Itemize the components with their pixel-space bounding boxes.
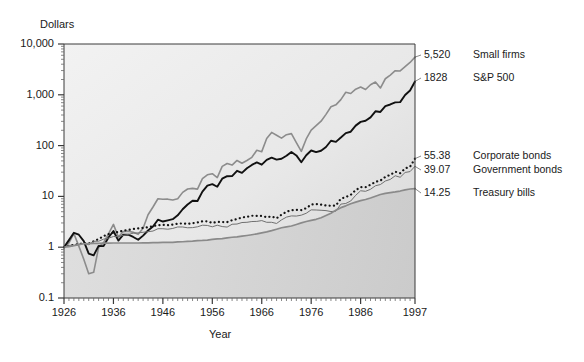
- y-tick-label: 0.1: [2, 291, 54, 303]
- series-end-value: 5,520: [424, 48, 450, 60]
- y-tick-label: 100: [2, 139, 54, 151]
- x-tick-label: 1946: [143, 306, 183, 318]
- x-tick-label: 1986: [341, 306, 381, 318]
- series-end-value: 14.25: [424, 186, 450, 198]
- chart-figure: Dollars Year 10,0001,0001001010.1 192619…: [0, 0, 584, 362]
- x-tick-label: 1936: [93, 306, 133, 318]
- y-tick-label: 1,000: [2, 88, 54, 100]
- x-tick-label: 1956: [192, 306, 232, 318]
- x-tick-label: 1926: [44, 306, 84, 318]
- series-legend-label: Government bonds: [473, 163, 562, 175]
- series-legend-label: Corporate bonds: [473, 149, 551, 161]
- series-end-value: 39.07: [424, 163, 450, 175]
- series-legend-label: Small firms: [473, 48, 525, 60]
- y-tick-label: 1: [2, 240, 54, 252]
- y-tick-label: 10: [2, 189, 54, 201]
- x-tick-label: 1966: [242, 306, 282, 318]
- series-end-value: 55.38: [424, 149, 450, 161]
- series-legend-label: S&P 500: [473, 71, 514, 83]
- series-end-value: 1828: [424, 71, 447, 83]
- series-legend-label: Treasury bills: [473, 186, 535, 198]
- x-tick-label: 1997: [395, 306, 435, 318]
- x-tick-label: 1976: [291, 306, 331, 318]
- y-tick-label: 10,000: [2, 37, 54, 49]
